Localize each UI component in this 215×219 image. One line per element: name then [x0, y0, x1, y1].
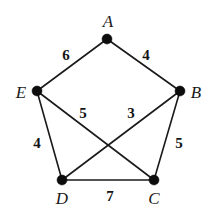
graph-vertex-d — [57, 175, 67, 185]
vertex-label-b: B — [191, 84, 202, 101]
vertex-label-d: D — [56, 190, 68, 207]
vertex-label-a: A — [103, 13, 114, 30]
edge-weight-bc: 5 — [175, 136, 183, 151]
graph-vertices — [32, 34, 185, 185]
graph-vertex-e — [32, 86, 42, 96]
weighted-graph-figure: ABCDE 6445357 — [0, 0, 215, 219]
edge-weight-ed: 4 — [33, 136, 41, 151]
graph-edge-ae — [37, 39, 107, 91]
graph-vertex-c — [149, 175, 159, 185]
edge-weight-dc: 7 — [106, 189, 114, 204]
edge-weight-ae: 6 — [62, 48, 70, 63]
graph-vertex-b — [175, 86, 185, 96]
graph-vertex-a — [102, 34, 112, 44]
edge-weight-ab: 4 — [142, 48, 150, 63]
graph-canvas — [0, 0, 215, 219]
vertex-label-c: C — [148, 190, 160, 207]
graph-edges — [37, 39, 180, 180]
vertex-label-e: E — [16, 84, 27, 101]
edge-weight-ec: 5 — [79, 106, 87, 121]
edge-weight-bd: 3 — [127, 106, 135, 121]
graph-edge-ec — [37, 91, 154, 180]
